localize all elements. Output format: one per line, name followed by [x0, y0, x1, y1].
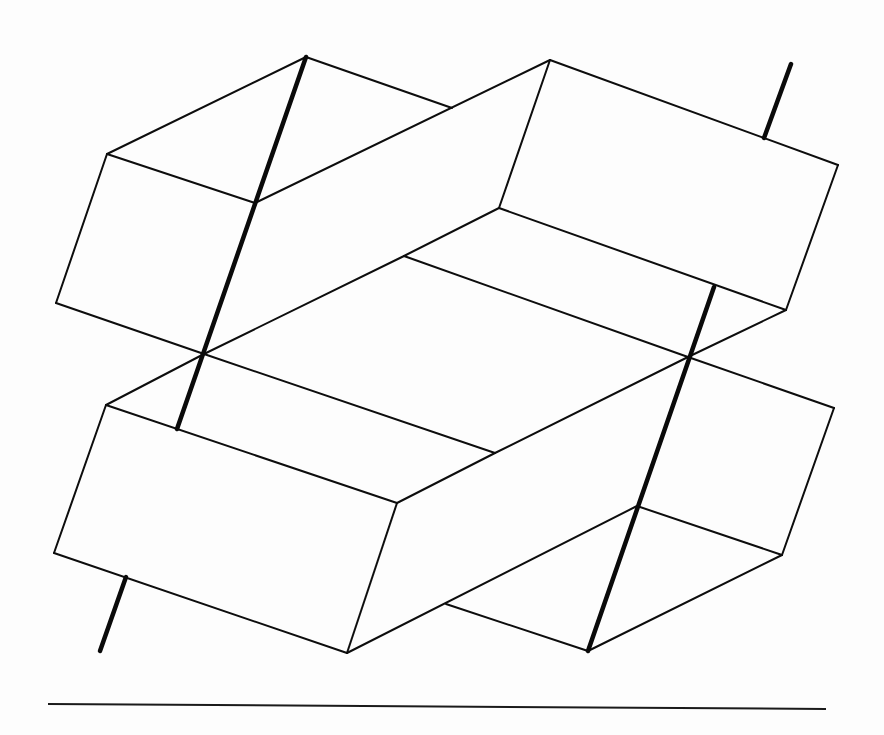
rods — [100, 57, 791, 651]
edge-BD — [56, 154, 107, 303]
edge-OR — [54, 553, 347, 653]
edge-FH — [786, 165, 838, 310]
left-rod-segment-1 — [100, 577, 126, 651]
edge-DP — [56, 303, 204, 354]
right-rod-segment-1 — [588, 287, 714, 651]
edge-QS — [688, 357, 834, 408]
right-rod-segment-0 — [764, 64, 791, 138]
edge-WV — [446, 604, 588, 651]
left-rod-segment-0 — [177, 57, 306, 429]
edge-MO — [54, 405, 106, 553]
edge-PL — [204, 354, 495, 453]
edge-MN — [106, 405, 397, 503]
edge-SU — [782, 408, 834, 555]
edge-EG — [499, 60, 550, 208]
edge-BC — [107, 154, 255, 203]
prism-edges — [54, 57, 838, 653]
edge-TU — [637, 506, 782, 555]
edge-NL — [397, 453, 495, 503]
diagram-canvas: Line drawing of four interlocking rectan… — [0, 0, 884, 735]
baseline-line — [48, 704, 826, 709]
prism-drawing — [0, 0, 884, 735]
edge-GH — [499, 208, 786, 310]
edge-EF — [550, 60, 838, 165]
edge-KQ — [404, 256, 688, 357]
edge-AJ — [306, 57, 452, 108]
edge-GK — [404, 208, 499, 256]
edge-LQ — [495, 357, 688, 453]
baseline — [48, 704, 826, 709]
